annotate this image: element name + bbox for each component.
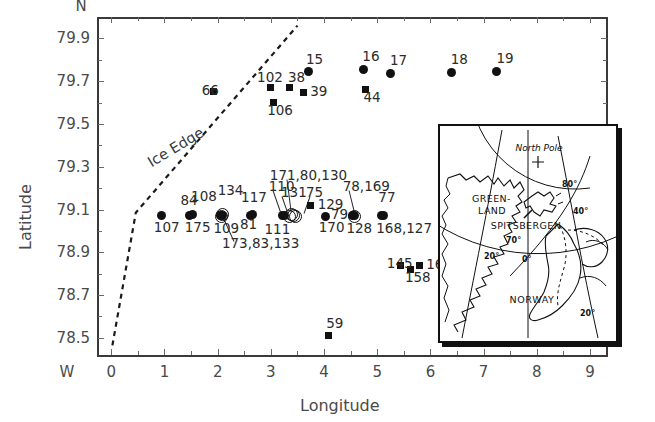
station-marker (379, 211, 388, 220)
station-label: 109 (213, 222, 239, 236)
inset-label: NORWAY (510, 294, 555, 305)
station-label: 117 (241, 191, 267, 205)
station-label: 18 (451, 53, 468, 67)
station-marker (289, 210, 302, 223)
station-label: 170 (319, 221, 345, 235)
station-label: 44 (363, 91, 380, 105)
station-marker (307, 202, 314, 209)
station-label: 66 (202, 84, 219, 98)
station-label: 107 (154, 221, 180, 235)
inset-locator-map: North Pole GREEN- LAND SPITSBERGEN NORWA… (438, 124, 618, 343)
station-label: 17 (390, 54, 407, 68)
station-label: 106 (267, 104, 293, 118)
station-label: 19 (496, 52, 513, 66)
station-label: 173,83,133 (222, 237, 299, 251)
inset-label: 20° (484, 252, 499, 261)
station-map-figure: 79.979.779.579.379.178.978.778.5 0123456… (0, 0, 655, 422)
station-label: 158 (405, 271, 431, 285)
inset-label: SPITSBERGEN (491, 220, 561, 231)
station-label: 15 (306, 53, 323, 67)
station-label: 102 (257, 71, 283, 85)
station-marker (325, 332, 332, 339)
station-label: 108 (191, 190, 217, 204)
inset-label: 40° (573, 207, 588, 216)
inset-label: North Pole (515, 143, 562, 153)
inset-label: 80° (562, 180, 577, 189)
station-label: 77 (378, 191, 395, 205)
station-label: 38 (288, 71, 305, 85)
station-label: 39 (310, 85, 327, 99)
station-marker (188, 210, 197, 219)
inset-label: 70° (506, 236, 521, 245)
inset-label: LAND (478, 205, 506, 216)
inset-label: GREEN- (472, 193, 511, 204)
station-label: 168,127 (376, 222, 432, 236)
inset-label: 20° (580, 309, 595, 318)
inset-label: 0° (522, 255, 532, 264)
station-label: 134 (218, 184, 244, 198)
station-label: 128 (346, 222, 372, 236)
station-label: 81 (240, 218, 257, 232)
station-marker (300, 89, 307, 96)
station-label: 175 (185, 221, 211, 235)
station-label: 59 (326, 317, 343, 331)
station-label: 16 (362, 50, 379, 64)
station-label: 131 (281, 186, 307, 200)
